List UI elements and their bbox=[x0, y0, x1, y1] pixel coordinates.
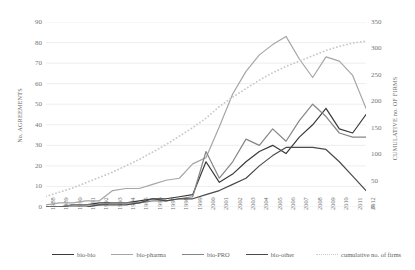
y-tick-left: 70 bbox=[20, 59, 42, 67]
legend-item: bio-other bbox=[246, 251, 294, 258]
legend-swatch bbox=[246, 254, 268, 255]
y-axis-left-title: No. AGREEMENTS bbox=[12, 60, 26, 170]
y-tick-left: 30 bbox=[20, 141, 42, 149]
y-tick-left: 10 bbox=[20, 182, 42, 190]
plot-area bbox=[46, 22, 366, 207]
legend-label: cumulative no. of firms bbox=[341, 251, 401, 258]
y-tick-right: 50 bbox=[371, 177, 395, 185]
series-line bbox=[46, 36, 366, 205]
y-tick-right: 200 bbox=[371, 97, 395, 105]
legend-swatch bbox=[52, 254, 74, 255]
chart-figure: No. AGREEMENTS CUMULATIVE no. OF FIRMS 0… bbox=[0, 0, 415, 270]
legend-item: cumulative no. of firms bbox=[316, 251, 401, 258]
y-tick-right: 100 bbox=[371, 150, 395, 158]
legend-swatch bbox=[316, 254, 338, 255]
legend-item: bio-bio bbox=[52, 251, 95, 258]
y-tick-left: 0 bbox=[20, 203, 42, 211]
y-tick-left: 20 bbox=[20, 162, 42, 170]
y-tick-left: 50 bbox=[20, 100, 42, 108]
legend-label: bio-bio bbox=[77, 251, 95, 258]
y-tick-left: 90 bbox=[20, 18, 42, 26]
y-tick-left: 60 bbox=[20, 80, 42, 88]
y-tick-right: 300 bbox=[371, 44, 395, 52]
legend-item: bio-PRO bbox=[182, 251, 230, 258]
legend-swatch bbox=[182, 254, 204, 255]
y-tick-right: 250 bbox=[371, 71, 395, 79]
legend-label: bio-PRO bbox=[207, 251, 230, 258]
legend-swatch bbox=[111, 254, 133, 255]
y-tick-right: 350 bbox=[371, 18, 395, 26]
y-tick-right: 150 bbox=[371, 124, 395, 132]
legend-label: bio-pharma bbox=[136, 251, 165, 258]
series-line bbox=[46, 104, 366, 207]
y-tick-left: 80 bbox=[20, 39, 42, 47]
legend-item: bio-pharma bbox=[111, 251, 165, 258]
x-tick: 2012 bbox=[369, 197, 376, 210]
legend-label: bio-other bbox=[271, 251, 294, 258]
y-tick-left: 40 bbox=[20, 121, 42, 129]
chart-legend: bio-biobio-pharmabio-PRObio-othercumulat… bbox=[52, 248, 402, 260]
